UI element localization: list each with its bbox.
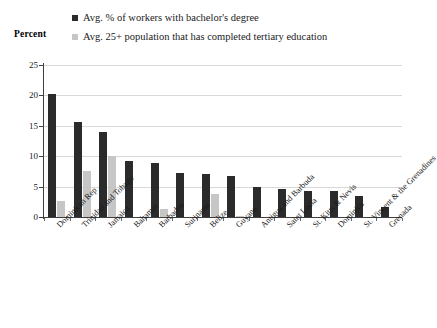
bar-group[interactable]: [44, 65, 70, 217]
bar-series-workers-bachelors[interactable]: [227, 176, 235, 217]
y-tick-mark: [39, 65, 43, 66]
square-marker-light-icon: [72, 34, 78, 40]
bar-group[interactable]: [351, 65, 377, 217]
y-tick-mark: [39, 95, 43, 96]
x-tick-mark: [376, 218, 377, 221]
bar-group[interactable]: [197, 65, 223, 217]
x-tick-mark: [44, 218, 45, 221]
y-tick-mark: [39, 156, 43, 157]
x-tick-mark: [249, 218, 250, 221]
y-tick-label: 25: [18, 60, 38, 70]
y-tick-mark: [39, 217, 43, 218]
bar-group[interactable]: [223, 65, 249, 217]
y-tick-label: 5: [18, 182, 38, 192]
x-tick-mark: [274, 218, 275, 221]
x-tick-mark: [325, 218, 326, 221]
y-axis-title: Percent: [14, 29, 46, 39]
x-tick-mark: [146, 218, 147, 221]
x-tick-mark: [95, 218, 96, 221]
x-tick-mark: [121, 218, 122, 221]
legend-item-workers-bachelors: Avg. % of workers with bachelor's degree: [72, 8, 402, 27]
x-tick-mark: [300, 218, 301, 221]
legend-label: Avg. % of workers with bachelor's degree: [83, 12, 259, 24]
x-tick-mark: [223, 218, 224, 221]
legend-label: Avg. 25+ population that has completed t…: [83, 31, 327, 43]
y-tick-label: 10: [18, 151, 38, 161]
x-tick-mark: [402, 218, 403, 221]
bar-group[interactable]: [300, 65, 326, 217]
x-tick-mark: [197, 218, 198, 221]
y-tick-label: 15: [18, 121, 38, 131]
y-tick-label: 20: [18, 90, 38, 100]
x-tick-mark: [351, 218, 352, 221]
bar-group[interactable]: [121, 65, 147, 217]
y-tick-mark: [39, 126, 43, 127]
legend-item-tertiary-education: Avg. 25+ population that has completed t…: [72, 27, 402, 46]
bar-series-workers-bachelors[interactable]: [48, 94, 56, 217]
square-marker-dark-icon: [72, 15, 78, 21]
y-tick-mark: [39, 187, 43, 188]
bar-group[interactable]: [249, 65, 275, 217]
bar-group[interactable]: [146, 65, 172, 217]
bar-group[interactable]: [172, 65, 198, 217]
y-tick-label: 0: [18, 212, 38, 222]
chart-legend: Avg. % of workers with bachelor's degree…: [72, 8, 402, 46]
x-tick-mark: [172, 218, 173, 221]
x-tick-mark: [70, 218, 71, 221]
